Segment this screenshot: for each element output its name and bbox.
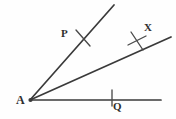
ray-AX-middle: [30, 37, 171, 100]
ray-AP-upper: [30, 5, 114, 100]
figure-canvas: [0, 0, 176, 119]
point-label-A: A: [16, 94, 25, 106]
point-label-Q: Q: [113, 101, 122, 112]
tick-at-P: [76, 30, 90, 46]
point-label-P: P: [61, 28, 68, 39]
tick-at-X-stroke-2: [128, 36, 146, 45]
vertex-point-A: [28, 98, 32, 102]
geometry-figure: A P X Q: [0, 0, 176, 119]
point-label-X: X: [144, 22, 152, 33]
